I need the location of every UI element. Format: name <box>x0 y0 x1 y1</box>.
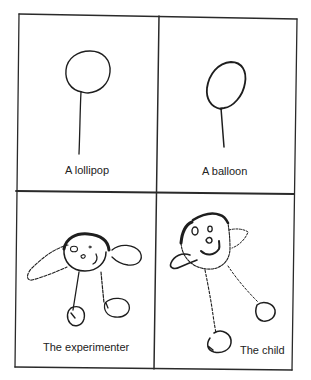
child-eye-left <box>192 227 198 235</box>
child-right-arm <box>229 229 248 248</box>
horizontal-divider <box>16 191 294 194</box>
experimenter-left-arm <box>28 245 69 280</box>
lollipop-drawing <box>66 51 110 154</box>
experimenter-nose <box>81 255 85 259</box>
balloon-body <box>207 62 246 109</box>
caption-balloon: A balloon <box>202 165 247 177</box>
child-hair-right <box>193 214 228 223</box>
lollipop-stick <box>79 92 81 154</box>
child-nose <box>206 237 212 243</box>
child-head <box>181 223 230 269</box>
lollipop-candy <box>66 51 110 93</box>
grid-frame <box>15 14 297 370</box>
child-drawing <box>171 214 276 353</box>
experimenter-right-arm <box>112 245 141 265</box>
child-left-arm <box>171 254 197 268</box>
child-hair-left <box>181 222 192 243</box>
balloon-drawing <box>207 62 246 147</box>
experimenter-right-leg <box>101 272 104 303</box>
experimenter-left-foot <box>67 307 84 326</box>
caption-experimenter: The experimenter <box>43 341 129 353</box>
caption-child: The child <box>240 344 285 356</box>
experimenter-eye-right <box>89 246 91 248</box>
drawing-grid-figure <box>0 0 311 380</box>
experimenter-drawing <box>28 234 142 326</box>
child-right-foot <box>256 303 275 322</box>
balloon-string <box>221 108 224 147</box>
child-right-leg <box>228 266 258 302</box>
child-left-foot <box>208 331 231 352</box>
experimenter-eye-left <box>71 246 78 252</box>
child-eye-right <box>208 226 212 232</box>
child-left-leg <box>205 270 216 333</box>
experimenter-right-foot <box>104 298 129 317</box>
experimenter-left-leg <box>73 272 79 310</box>
caption-lollipop: A lollipop <box>65 164 109 176</box>
experimenter-head <box>64 249 106 271</box>
frame-top-edge <box>19 14 297 19</box>
experimenter-mouth <box>93 254 97 264</box>
